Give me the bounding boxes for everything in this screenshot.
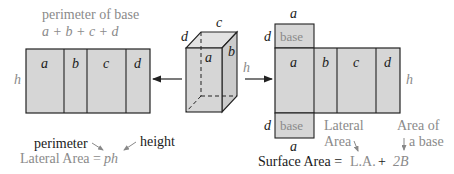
perimeter-of-base-label: perimeter of base (42, 7, 139, 22)
face-a-label: a (41, 56, 48, 71)
perimeter-formula: a + b + c + d (42, 24, 120, 39)
surface-area-diagram: perimeter of base a + b + c + d a b c d … (0, 0, 454, 174)
right-face-d-label: d (384, 55, 392, 70)
top-base-d-label: d (264, 29, 272, 44)
height-annotation: height (140, 134, 175, 149)
face-c-label: c (103, 56, 110, 71)
lateral-area-ph: ph (103, 151, 118, 166)
bottom-base-a-label: a (290, 139, 297, 154)
base-note-2: a base (409, 134, 444, 149)
face-b-label: b (72, 56, 79, 71)
lateral-area-lhs: Lateral Area = (20, 151, 101, 166)
prism-d-label: d (181, 29, 189, 44)
lateral-note-2: Area (324, 134, 352, 149)
base-note-1: Area of (397, 118, 440, 133)
bottom-base-d-label: d (264, 118, 272, 133)
perimeter-annotation: perimeter (34, 136, 88, 151)
face-d-label: d (134, 56, 142, 71)
surface-area-lhs: Surface Area = (258, 154, 342, 169)
bottom-base-label: base (280, 118, 303, 133)
prism-a-label: a (205, 50, 212, 65)
height-label: h (14, 72, 21, 87)
right-height-label: h (406, 72, 413, 87)
lateral-area-formula: perimeter height Lateral Area = ph (20, 134, 175, 166)
top-base-a-label: a (290, 6, 297, 21)
arrow-h-label: h (243, 60, 250, 75)
top-base-label: base (280, 29, 303, 44)
right-face-a-label: a (290, 55, 297, 70)
surface-area-plus: + (378, 154, 386, 169)
left-net: perimeter of base a + b + c + d a b c d … (14, 7, 150, 113)
surface-area-2b: 2B (393, 154, 409, 169)
right-face-c-label: c (353, 55, 360, 70)
prism-b-label: b (228, 44, 235, 59)
surface-area-la: L.A. (350, 154, 376, 169)
lateral-note-1: Lateral (324, 118, 364, 133)
rectangular-prism: c d a b (181, 15, 237, 112)
prism-c-label: c (216, 15, 223, 30)
right-face-b-label: b (322, 55, 329, 70)
